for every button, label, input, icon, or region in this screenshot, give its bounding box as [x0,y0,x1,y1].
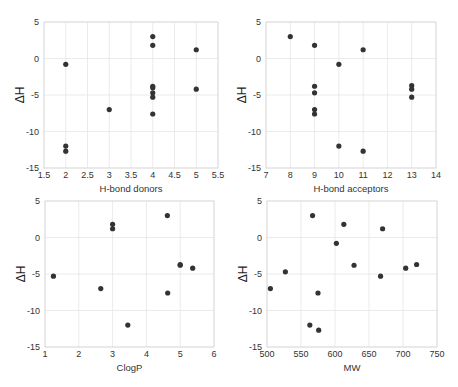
x-tick-label: 3 [107,170,112,180]
data-point [63,149,68,154]
y-tick-label: 5 [256,17,261,27]
data-point [361,47,366,52]
y-axis-label: ΔH [13,87,27,104]
data-point [312,111,317,116]
data-point [307,323,312,328]
x-tick-label: 5.5 [212,170,225,180]
data-point [63,62,68,67]
panel-clogp: 12345650-5-10-15ClogPΔH [14,196,217,373]
x-tick-label: 8 [288,170,293,180]
data-point [414,262,419,267]
x-tick-label: 3.5 [125,170,138,180]
x-tick-label: 550 [293,349,308,359]
x-tick-label: 4 [144,349,149,359]
x-tick-label: 2.5 [81,170,94,180]
data-point [409,95,414,100]
x-tick-label: 700 [395,349,410,359]
data-point [63,144,68,149]
data-point [341,222,346,227]
x-tick-label: 4.5 [168,170,181,180]
x-tick-label: 650 [361,349,376,359]
x-tick-label: 9 [312,170,317,180]
panel-mw: 50055060065070075050-5-10-15MWΔH [236,196,445,373]
y-axis-label: ΔH [14,266,28,283]
x-tick-label: 12 [382,170,392,180]
y-tick-label: -5 [254,269,262,279]
data-point [403,266,408,271]
y-tick-label: -15 [26,163,39,173]
y-tick-label: 0 [256,54,261,64]
x-axis-label: H-bond acceptors [314,183,389,194]
x-tick-label: 7 [263,170,268,180]
data-point [268,286,273,291]
y-tick-label: 5 [257,196,262,206]
panel-hbond-acceptors: 789101112131450-5-10-15H-bond acceptorsΔ… [235,17,441,194]
x-axis-label: ClogP [117,362,143,373]
data-point [310,213,315,218]
data-point [150,95,155,100]
x-tick-label: 750 [429,349,444,359]
y-tick-label: 0 [35,233,40,243]
x-axis-label: H-bond donors [100,183,163,194]
data-point [312,84,317,89]
x-tick-label: 10 [334,170,344,180]
data-point [150,43,155,48]
y-tick-label: 5 [35,196,40,206]
data-point [315,290,320,295]
x-tick-label: 2 [76,349,81,359]
data-point [194,47,199,52]
data-point [312,43,317,48]
data-point [288,34,293,39]
data-point [190,266,195,271]
x-tick-label: 5 [178,349,183,359]
y-tick-label: 0 [257,233,262,243]
y-tick-label: -10 [248,127,261,137]
data-point [51,274,56,279]
x-tick-label: 3 [110,349,115,359]
data-point [312,90,317,95]
data-point [380,226,385,231]
x-tick-label: 2 [63,170,68,180]
x-tick-label: 1 [42,349,47,359]
x-tick-label: 13 [407,170,417,180]
x-tick-label: 14 [431,170,441,180]
data-point [150,111,155,116]
x-tick-label: 600 [327,349,342,359]
data-point [107,107,112,112]
x-tick-label: 5 [194,170,199,180]
y-axis-label: ΔH [236,266,250,283]
data-point [150,34,155,39]
data-point [351,263,356,268]
y-tick-label: 0 [34,54,39,64]
y-axis-label: ΔH [235,87,249,104]
data-point [336,144,341,149]
y-tick-label: -15 [249,342,262,352]
x-tick-label: 1.5 [38,170,51,180]
x-tick-label: 6 [211,349,216,359]
scatter-figure: 1.522.533.544.555.550-5-10-15H-bond dono… [0,0,458,387]
data-point [165,213,170,218]
y-tick-label: -10 [249,306,262,316]
y-tick-label: -15 [27,342,40,352]
data-point [125,323,130,328]
data-point [165,290,170,295]
y-tick-label: -5 [31,90,39,100]
data-point [194,87,199,92]
x-tick-label: 11 [358,170,367,180]
data-point [150,85,155,90]
panel-hbond-donors: 1.522.533.544.555.550-5-10-15H-bond dono… [13,17,224,194]
data-point [336,62,341,67]
data-point [178,263,183,268]
data-point [110,226,115,231]
x-tick-label: 4 [150,170,155,180]
data-point [98,286,103,291]
y-tick-label: -10 [26,127,39,137]
data-point [378,274,383,279]
y-tick-label: -5 [253,90,261,100]
x-axis-label: MW [344,362,361,373]
data-point [283,269,288,274]
data-point [361,149,366,154]
y-tick-label: 5 [34,17,39,27]
y-tick-label: -10 [27,306,40,316]
data-point [316,328,321,333]
